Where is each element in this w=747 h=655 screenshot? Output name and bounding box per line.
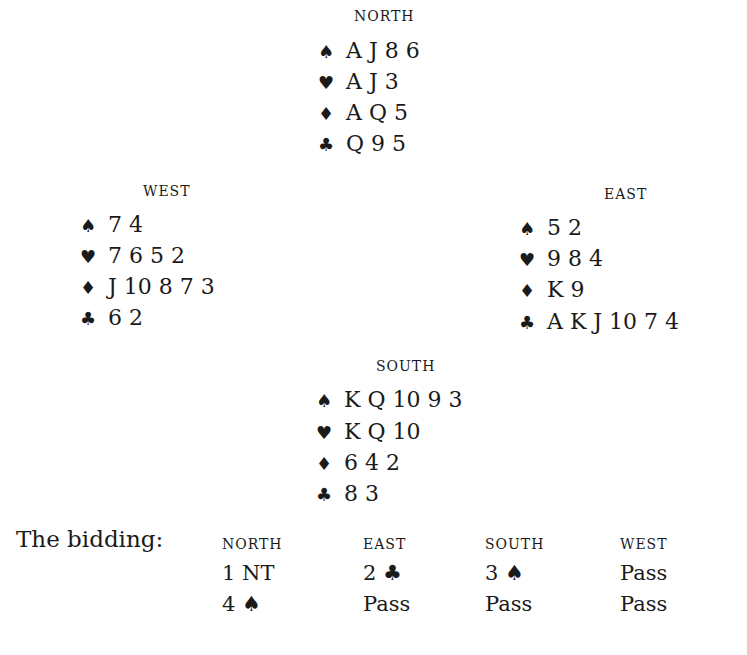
west-spades-cards: 7 4 (108, 212, 143, 237)
north-clubs-row: ♣Q 9 5 (318, 129, 406, 159)
south-spades-row: ♠K Q 10 9 3 (316, 385, 462, 415)
north-clubs-cards: Q 9 5 (346, 131, 406, 156)
west-diamonds-cards: J 10 8 7 3 (108, 274, 215, 299)
spade-icon: ♠ (80, 211, 108, 241)
north-hearts-cards: A J 3 (346, 69, 399, 94)
east-spades-row: ♠5 2 (519, 213, 582, 243)
bid-r2-north: 4 ♠ (222, 592, 261, 616)
diamond-icon: ♦ (318, 99, 346, 129)
west-clubs-row: ♣6 2 (80, 303, 143, 333)
seat-label-west: WEST (143, 183, 191, 199)
bid-r2-west: Pass (620, 592, 667, 616)
seat-label-south: SOUTH (376, 358, 435, 374)
heart-icon: ♥ (316, 418, 344, 448)
north-spades-row: ♠A J 8 6 (318, 36, 420, 66)
spade-icon: ♠ (316, 386, 344, 416)
spade-icon: ♠ (318, 37, 346, 67)
south-diamonds-cards: 6 4 2 (344, 450, 400, 475)
north-diamonds-cards: A Q 5 (346, 100, 408, 125)
west-hearts-cards: 7 6 5 2 (108, 243, 185, 268)
south-diamonds-row: ♦6 4 2 (316, 448, 400, 478)
bid-r1-east: 2 ♣ (363, 561, 402, 585)
north-hearts-row: ♥A J 3 (318, 67, 399, 97)
east-hearts-row: ♥9 8 4 (519, 244, 603, 274)
bidding-header-west: WEST (620, 536, 668, 552)
east-clubs-row: ♣A K J 10 7 4 (519, 307, 679, 337)
club-icon: ♣ (318, 130, 346, 160)
diamond-icon: ♦ (316, 449, 344, 479)
bid-r2-south: Pass (485, 592, 532, 616)
bidding-header-east: EAST (363, 536, 406, 552)
north-diamonds-row: ♦A Q 5 (318, 98, 408, 128)
seat-label-east: EAST (604, 186, 647, 202)
heart-icon: ♥ (80, 242, 108, 272)
west-diamonds-row: ♦J 10 8 7 3 (80, 272, 215, 302)
bidding-header-south: SOUTH (485, 536, 544, 552)
south-spades-cards: K Q 10 9 3 (344, 387, 462, 412)
east-diamonds-cards: K 9 (547, 277, 584, 302)
bid-r2-east: Pass (363, 592, 410, 616)
east-clubs-cards: A K J 10 7 4 (547, 309, 679, 334)
club-icon: ♣ (316, 480, 344, 510)
east-spades-cards: 5 2 (547, 215, 582, 240)
bid-r1-south: 3 ♠ (485, 561, 524, 585)
seat-label-north: NORTH (354, 8, 415, 24)
south-hearts-row: ♥K Q 10 (316, 417, 420, 447)
bidding-label: The bidding: (16, 526, 163, 552)
heart-icon: ♥ (318, 68, 346, 98)
bidding-header-north: NORTH (222, 536, 283, 552)
club-icon: ♣ (80, 304, 108, 334)
spade-icon: ♠ (519, 214, 547, 244)
heart-icon: ♥ (519, 245, 547, 275)
east-diamonds-row: ♦K 9 (519, 275, 584, 305)
south-clubs-cards: 8 3 (344, 481, 379, 506)
west-clubs-cards: 6 2 (108, 305, 143, 330)
south-hearts-cards: K Q 10 (344, 419, 420, 444)
diamond-icon: ♦ (80, 273, 108, 303)
north-spades-cards: A J 8 6 (346, 38, 420, 63)
bid-r1-west: Pass (620, 561, 667, 585)
club-icon: ♣ (519, 308, 547, 338)
west-spades-row: ♠7 4 (80, 210, 143, 240)
diamond-icon: ♦ (519, 276, 547, 306)
bid-r1-north: 1 NT (222, 561, 274, 585)
south-clubs-row: ♣8 3 (316, 479, 379, 509)
east-hearts-cards: 9 8 4 (547, 246, 603, 271)
west-hearts-row: ♥7 6 5 2 (80, 241, 185, 271)
